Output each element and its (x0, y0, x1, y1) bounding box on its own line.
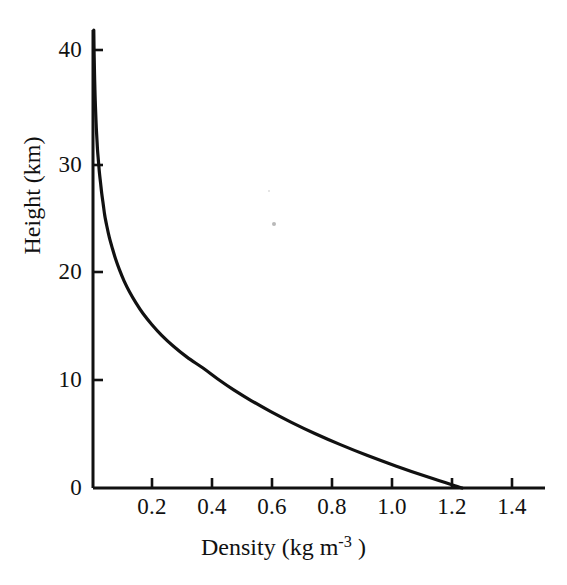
x-axis-title-tail: ) (352, 534, 366, 560)
x-tick-label-1-0: 1.0 (377, 494, 406, 520)
x-axis-title-main: Density (kg m (201, 534, 338, 560)
x-tick-label-0-8: 0.8 (317, 494, 346, 520)
y-tick-label-10: 10 (30, 367, 82, 393)
x-tick-label-1-4: 1.4 (497, 494, 526, 520)
x-axis-title: Density (kg m-3 ) (0, 534, 567, 561)
x-axis-title-exponent: -3 (338, 532, 352, 551)
y-tick-label-0: 0 (30, 475, 82, 501)
scan-speck (272, 222, 276, 226)
density-curve (94, 30, 462, 488)
x-tick-label-0-4: 0.4 (197, 494, 226, 520)
y-tick-label-40: 40 (30, 37, 82, 63)
y-axis-title: Height (km) (19, 116, 46, 276)
x-tick-label-0-6: 0.6 (257, 494, 286, 520)
density-height-chart: 40 30 20 10 0 0.2 0.4 0.6 0.8 1.0 1.2 1.… (0, 0, 567, 585)
x-tick-label-0-2: 0.2 (137, 494, 166, 520)
scan-speck-small (268, 190, 270, 192)
x-tick-label-1-2: 1.2 (437, 494, 466, 520)
